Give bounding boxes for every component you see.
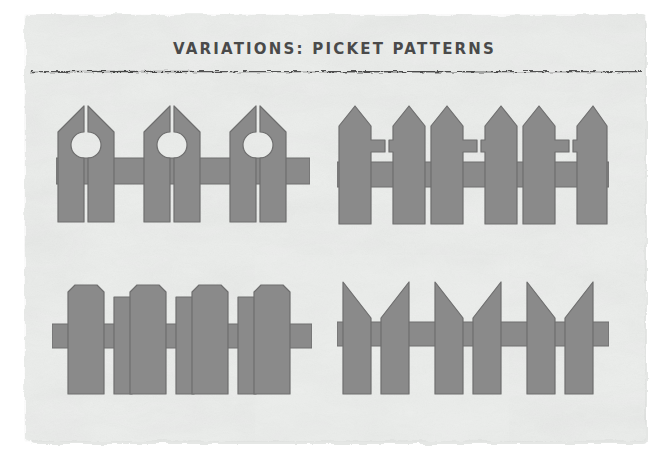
picket	[389, 106, 425, 224]
alternating-chamfer-picket-fence-svg	[52, 276, 312, 396]
picket-narrow	[176, 297, 194, 394]
cross-picket-fence-svg	[337, 96, 609, 229]
poster-sheet: VARIATIONS: PICKET PATTERNS	[0, 0, 669, 465]
fence-rail	[337, 162, 609, 187]
picket	[343, 282, 371, 394]
picket	[381, 282, 409, 394]
picket-narrow	[238, 297, 256, 394]
angled-chevron-picket-fence-svg	[337, 276, 609, 396]
picket	[527, 282, 555, 394]
page-title: VARIATIONS: PICKET PATTERNS	[0, 40, 669, 58]
picket	[573, 106, 607, 224]
keyhole-picket-fence-svg	[56, 96, 310, 229]
poster-content: VARIATIONS: PICKET PATTERNS	[0, 0, 669, 465]
picket-narrow	[114, 297, 132, 394]
fence-figure-chamfer	[52, 276, 312, 400]
picket	[565, 282, 593, 394]
picket	[473, 282, 501, 394]
fence-figure-keyhole	[56, 96, 310, 233]
picket	[481, 106, 517, 224]
picket	[144, 106, 170, 222]
picket	[435, 282, 463, 394]
title-divider	[28, 62, 643, 71]
picket-wide	[68, 285, 104, 394]
picket-wide	[130, 285, 166, 394]
title-divider-svg	[28, 67, 643, 76]
picket	[260, 106, 286, 222]
picket	[88, 106, 114, 222]
picket	[58, 106, 84, 222]
fence-figure-chevron	[337, 276, 609, 400]
picket	[230, 106, 256, 222]
fence-figure-cross	[337, 96, 609, 233]
picket-wide	[254, 285, 290, 394]
picket	[174, 106, 200, 222]
picket-wide	[192, 285, 228, 394]
